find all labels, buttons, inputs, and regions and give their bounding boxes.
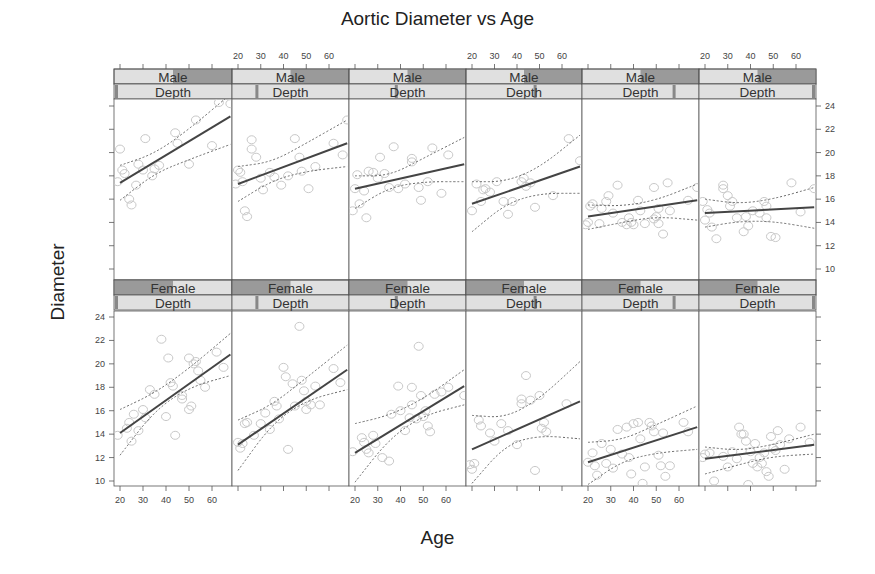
strip-depth: Depth [114,84,232,100]
strip-depth-label: Depth [272,85,308,100]
x-tick-label-bottom: 40 [628,495,638,505]
y-tick-label-left: 22 [95,335,105,345]
x-tick-label-top: 50 [534,51,544,61]
strip-sex: Male [114,69,232,85]
x-tick-label-top: 60 [324,51,334,61]
panel-female-1: FemaleDepth [113,280,232,486]
strip-sex-label: Male [626,70,655,85]
x-tick-label-bottom: 40 [395,495,405,505]
x-tick-label-top: 30 [256,51,266,61]
strip-sex: Female [114,280,232,296]
x-tick-label-bottom: 30 [138,495,148,505]
panel-female-5: FemaleDepth [582,280,699,487]
strip-sex: Female [232,280,349,296]
depth-level-marker [255,85,258,98]
y-tick-label-right: 18 [825,171,835,181]
depth-level-marker [115,296,118,309]
panel-male-5: MaleDepth [581,69,701,280]
strip-sex-label: Male [393,70,422,85]
x-tick-label-bottom: 20 [583,495,593,505]
panel-female-3: FemaleDepth [348,280,468,486]
strip-depth: Depth [582,295,699,311]
strip-sex: Male [232,69,349,85]
panel-frame [466,99,582,280]
panel-frame [349,99,466,280]
x-tick-label-bottom: 20 [115,495,125,505]
strip-depth: Depth [349,84,466,100]
panel-frame [699,311,816,486]
panel-male-1: MaleDepth [113,69,235,280]
strip-depth-label: Depth [739,296,775,311]
strip-depth-label: Depth [155,85,191,100]
strip-depth: Depth [699,295,816,311]
panel-frame [114,311,232,486]
x-tick-label-bottom: 30 [606,495,616,505]
x-tick-label-top: 40 [278,51,288,61]
strip-depth-label: Depth [272,296,308,311]
x-tick-label-top: 60 [557,51,567,61]
x-tick-label-top: 20 [233,51,243,61]
strip-sex-label: Female [268,281,313,296]
panel-male-3: MaleDepth [348,69,466,280]
panel-male-6: MaleDepth [698,69,818,280]
strip-sex: Male [466,69,582,85]
strip-sex-label: Female [618,281,663,296]
x-tick-label-top: 50 [768,51,778,61]
y-tick-label-right: 12 [825,241,835,251]
depth-level-marker [673,85,676,98]
panel-male-4: MaleDepth [466,69,585,280]
depth-level-marker [673,296,676,309]
strip-sex: Female [699,280,816,296]
strip-sex-label: Female [501,281,546,296]
panel-female-6: FemaleDepth [698,280,816,489]
panel-frame [232,311,349,486]
panel-frame [349,311,466,486]
strip-depth: Depth [349,295,466,311]
x-tick-label-top: 20 [467,51,477,61]
x-tick-label-bottom: 50 [418,495,428,505]
strip-depth-label: Depth [622,85,658,100]
x-tick-label-top: 50 [301,51,311,61]
strip-depth: Depth [232,84,349,100]
x-tick-label-bottom: 50 [651,495,661,505]
panel-frame [466,311,582,486]
panel-female-2: FemaleDepth [232,280,349,486]
strip-sex-label: Male [743,70,772,85]
y-tick-label-right: 10 [825,264,835,274]
strip-sex: Male [582,69,699,85]
strip-depth-label: Depth [506,296,542,311]
strip-depth: Depth [582,84,699,100]
strip-sex: Female [466,280,582,296]
x-tick-label-top: 40 [512,51,522,61]
panel-female-4: FemaleDepth [465,280,582,486]
strip-sex: Female [349,280,466,296]
strip-depth: Depth [232,295,349,311]
strip-depth: Depth [114,295,232,311]
y-tick-label-left: 12 [95,453,105,463]
depth-level-marker [255,296,258,309]
x-tick-label-top: 40 [745,51,755,61]
strip-depth: Depth [466,84,582,100]
strip-sex: Male [349,69,466,85]
depth-level-marker [115,85,118,98]
panel-male-2: MaleDepth [231,69,351,280]
strip-depth-label: Depth [389,296,425,311]
y-tick-label-left: 24 [95,312,105,322]
strip-sex-label: Male [158,70,187,85]
x-tick-label-bottom: 60 [207,495,217,505]
strip-sex: Female [582,280,699,296]
x-tick-label-bottom: 60 [441,495,451,505]
x-tick-label-top: 30 [723,51,733,61]
strip-sex-label: Male [276,70,305,85]
panel-frame [582,99,699,280]
depth-level-marker [812,85,815,98]
x-tick-label-top: 20 [700,51,710,61]
y-tick-label-right: 24 [825,101,835,111]
y-tick-label-right: 14 [825,217,835,227]
strip-sex-label: Female [735,281,780,296]
x-tick-label-top: 30 [489,51,499,61]
strip-depth-label: Depth [155,296,191,311]
strip-depth: Depth [699,84,816,100]
lattice-plot: MaleDepthMaleDepthMaleDepthMaleDepthMale… [0,0,875,574]
panel-frame [699,99,816,280]
